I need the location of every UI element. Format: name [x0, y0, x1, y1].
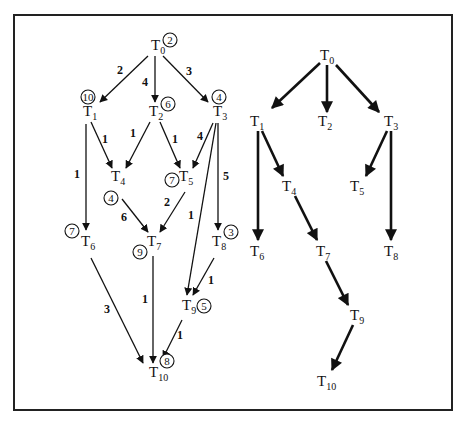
priority-badge: 10 — [81, 90, 95, 104]
spanning-tree: T0T1T2T3T4T5T6T7T8T9T10 — [250, 47, 398, 392]
priority-badge: 4 — [212, 90, 226, 104]
tree-edge-t0-t1 — [272, 63, 320, 108]
right-node-t9: T9 — [350, 307, 364, 326]
right-node-t3: T3 — [384, 113, 398, 132]
edge-weight: 1 — [102, 132, 108, 146]
priority-badge: 7 — [65, 224, 79, 238]
svg-text:9: 9 — [137, 246, 143, 258]
edge-t0-t3 — [163, 56, 208, 102]
left-node-t8: T8 — [212, 233, 226, 252]
right-node-t6: T6 — [250, 243, 264, 262]
priority-badge: 9 — [133, 245, 147, 259]
edge-weight: 1 — [208, 273, 214, 287]
left-node-t4: T4 — [111, 168, 125, 187]
priority-badge: 6 — [161, 97, 175, 111]
edge-weight: 1 — [142, 292, 148, 306]
tree-edge-t4-t7 — [295, 196, 317, 240]
priority-badge: 3 — [224, 225, 238, 239]
priority-badge: 5 — [197, 299, 211, 313]
right-node-t4: T4 — [282, 178, 296, 197]
svg-text:4: 4 — [108, 192, 114, 204]
edge-weight: 1 — [172, 132, 178, 146]
left-node-t5: T5 — [179, 168, 193, 187]
tree-edge-t9-t10 — [332, 325, 353, 370]
left-node-t3: T3 — [213, 103, 227, 122]
tree-edge-t0-t3 — [336, 65, 379, 112]
edge-t0-t1 — [100, 56, 148, 102]
edge-weight: 4 — [142, 75, 148, 89]
edge-weight: 6 — [121, 210, 127, 224]
right-node-t2: T2 — [318, 113, 332, 132]
svg-text:7: 7 — [169, 174, 175, 186]
tree-edge-t7-t9 — [326, 261, 348, 305]
right-node-t1: T1 — [250, 113, 264, 132]
diagram-canvas: 2431111451623111T02T110T26T34T44T57T67T7… — [0, 0, 466, 421]
edge-weight: 3 — [104, 302, 110, 316]
svg-text:6: 6 — [165, 98, 171, 110]
edge-weight: 5 — [223, 169, 229, 183]
svg-text:2: 2 — [167, 34, 173, 46]
left-node-t7: T7 — [147, 233, 161, 252]
priority-badge: 7 — [165, 173, 179, 187]
svg-text:10: 10 — [83, 91, 95, 103]
priority-badge: 4 — [104, 191, 118, 205]
svg-text:7: 7 — [69, 225, 75, 237]
edge-t6-t10 — [91, 258, 143, 363]
figure-frame — [14, 15, 452, 410]
right-node-t5: T5 — [350, 178, 364, 197]
edge-weight: 1 — [74, 167, 80, 181]
edge-weight: 1 — [177, 328, 183, 342]
tree-edge-t3-t5 — [366, 131, 387, 176]
edge-weight: 2 — [117, 63, 123, 77]
edge-weight: 1 — [188, 208, 194, 222]
svg-text:4: 4 — [216, 91, 222, 103]
priority-badge: 2 — [163, 33, 177, 47]
edge-weight: 2 — [164, 195, 170, 209]
tree-edge-t1-t4 — [262, 131, 283, 176]
left-node-t1: T1 — [83, 103, 97, 122]
edge-weight: 4 — [197, 129, 203, 143]
priority-badge: 8 — [160, 354, 174, 368]
left-node-t6: T6 — [81, 233, 95, 252]
edge-weight: 3 — [186, 64, 192, 78]
right-node-t8: T8 — [384, 243, 398, 262]
left-node-t9: T9 — [182, 297, 196, 316]
task-graph: 2431111451623111T02T110T26T34T44T57T67T7… — [65, 33, 238, 383]
svg-text:3: 3 — [228, 226, 234, 238]
right-node-t0: T0 — [320, 47, 334, 66]
right-node-t7: T7 — [316, 243, 330, 262]
right-node-t10: T10 — [317, 373, 336, 392]
svg-text:8: 8 — [164, 355, 170, 367]
svg-text:5: 5 — [201, 300, 207, 312]
edge-weight: 1 — [130, 126, 136, 140]
